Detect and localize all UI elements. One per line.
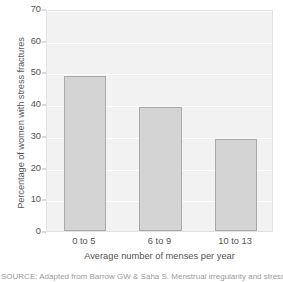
y-tick-label: 60 xyxy=(31,37,41,46)
y-tick-label: 10 xyxy=(31,196,41,205)
x-axis-title: Average number of menses per year xyxy=(46,250,273,263)
y-tick-label: 30 xyxy=(31,132,41,141)
x-axis-ticks: 0 to 56 to 910 to 13 xyxy=(46,234,273,248)
x-tick-label: 6 to 9 xyxy=(148,234,171,248)
y-tick-label: 50 xyxy=(31,69,41,78)
y-tick-label: 0 xyxy=(36,227,41,236)
bar xyxy=(64,76,106,231)
y-tick-label: 20 xyxy=(31,164,41,173)
bars-group xyxy=(47,11,272,231)
x-tick-label: 10 to 13 xyxy=(218,234,252,248)
bar xyxy=(215,139,257,231)
bar xyxy=(139,107,181,231)
y-axis-ticks: 010203040506070 xyxy=(22,10,46,232)
plot-area xyxy=(46,10,273,232)
y-tick-label: 70 xyxy=(31,5,41,14)
source-caption: SOURCE: Adapted from Barrow GW & Saha S.… xyxy=(1,272,283,282)
bar-chart-figure: Percentage of women with stress fracture… xyxy=(0,0,283,282)
y-tick-label: 40 xyxy=(31,100,41,109)
x-tick-label: 0 to 5 xyxy=(72,234,95,248)
